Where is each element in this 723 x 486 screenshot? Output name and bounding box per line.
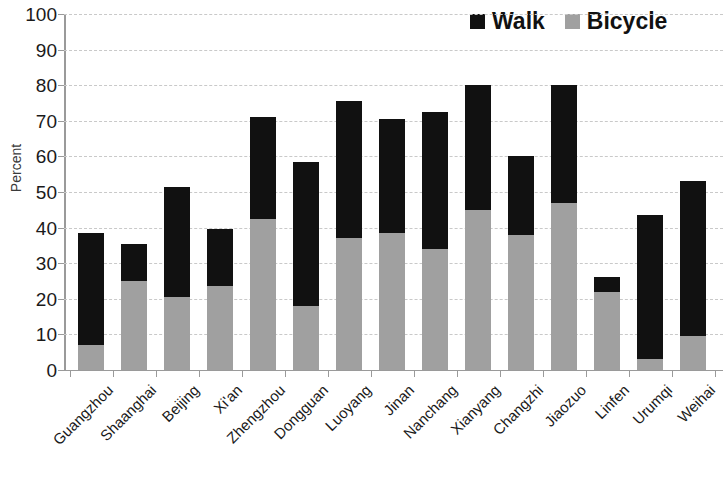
y-tick-mark-90 (58, 50, 64, 51)
x-tick-mark (715, 370, 716, 377)
bar-group[interactable] (422, 14, 448, 370)
bar-group[interactable] (293, 14, 319, 370)
bar-segment-bicycle[interactable] (379, 233, 405, 370)
x-axis-label-urumqi: Urumqi (630, 382, 675, 427)
x-axis-label-dongguan: Dongguan (271, 382, 331, 442)
x-tick-mark (285, 370, 286, 377)
x-tick-mark (672, 370, 673, 377)
y-tick-mark-10 (58, 334, 64, 335)
bar-segment-walk[interactable] (293, 162, 319, 306)
y-tick-label: 10 (11, 325, 57, 344)
gridline-0 (64, 370, 723, 371)
x-tick-mark (113, 370, 114, 377)
y-tick-label: 90 (11, 40, 57, 59)
x-axis-label-luoyang: Luoyang (322, 382, 373, 433)
stacked-bar-chart: WalkBicycle Percent 01020304050607080901… (0, 0, 723, 486)
x-axis-label-weihai: Weihai (675, 382, 718, 425)
bar-group[interactable] (78, 14, 104, 370)
bar-segment-walk[interactable] (508, 156, 534, 234)
bar-segment-walk[interactable] (250, 117, 276, 218)
y-tick-label: 20 (11, 289, 57, 308)
bar-group[interactable] (594, 14, 620, 370)
bar-group[interactable] (250, 14, 276, 370)
y-tick-mark-20 (58, 299, 64, 300)
x-tick-mark (371, 370, 372, 377)
bar-group[interactable] (680, 14, 706, 370)
y-tick-mark-80 (58, 85, 64, 86)
y-tick-mark-70 (58, 121, 64, 122)
x-tick-mark (70, 370, 71, 377)
y-tick-label: 80 (11, 76, 57, 95)
bar-segment-bicycle[interactable] (336, 238, 362, 370)
x-tick-mark (199, 370, 200, 377)
bar-segment-bicycle[interactable] (293, 306, 319, 370)
y-tick-mark-50 (58, 192, 64, 193)
bar-group[interactable] (379, 14, 405, 370)
y-tick-mark-40 (58, 228, 64, 229)
x-axis-label-changzhi: Changzhi (490, 382, 545, 437)
x-tick-mark (457, 370, 458, 377)
x-axis-label-beijing: Beijing (159, 382, 201, 424)
bar-segment-walk[interactable] (207, 229, 233, 286)
x-axis-label-guangzhou: Guangzhou (50, 382, 115, 447)
x-axis-label-nanchang: Nanchang (401, 382, 460, 441)
bar-group[interactable] (465, 14, 491, 370)
bar-segment-bicycle[interactable] (164, 297, 190, 370)
x-tick-mark (543, 370, 544, 377)
bar-segment-bicycle[interactable] (465, 210, 491, 370)
x-tick-mark (500, 370, 501, 377)
y-tick-label: 60 (11, 147, 57, 166)
bar-segment-bicycle[interactable] (121, 281, 147, 370)
bar-segment-bicycle[interactable] (594, 292, 620, 370)
y-tick-mark-30 (58, 263, 64, 264)
bar-segment-bicycle[interactable] (508, 235, 534, 370)
bar-group[interactable] (336, 14, 362, 370)
y-tick-label: 0 (11, 361, 57, 380)
bar-segment-bicycle[interactable] (637, 359, 663, 370)
y-tick-mark-0 (58, 370, 64, 371)
bar-segment-bicycle[interactable] (78, 345, 104, 370)
bar-segment-bicycle[interactable] (680, 336, 706, 370)
x-tick-mark (414, 370, 415, 377)
x-tick-mark (629, 370, 630, 377)
bar-segment-walk[interactable] (594, 277, 620, 291)
x-tick-mark (328, 370, 329, 377)
bar-segment-walk[interactable] (164, 187, 190, 297)
bar-segment-walk[interactable] (680, 181, 706, 336)
x-axis-label-xian: Xi'an (211, 382, 245, 416)
x-axis-label-shaanghai: Shaanghai (97, 382, 158, 443)
y-tick-label: 30 (11, 254, 57, 273)
bar-segment-walk[interactable] (422, 112, 448, 249)
bar-segment-walk[interactable] (379, 119, 405, 233)
bar-segment-bicycle[interactable] (250, 219, 276, 370)
x-axis-label-jinan: Jinan (381, 382, 417, 418)
y-tick-label: 70 (11, 111, 57, 130)
bar-group[interactable] (207, 14, 233, 370)
x-tick-mark (586, 370, 587, 377)
bar-group[interactable] (121, 14, 147, 370)
bar-group[interactable] (551, 14, 577, 370)
bar-segment-walk[interactable] (551, 85, 577, 202)
bar-group[interactable] (637, 14, 663, 370)
y-tick-label: 100 (11, 5, 57, 24)
y-tick-mark-100 (58, 14, 64, 15)
bar-segment-walk[interactable] (637, 215, 663, 359)
plot-area: 0102030405060708090100 (64, 14, 723, 370)
y-tick-label: 40 (11, 218, 57, 237)
y-tick-mark-60 (58, 156, 64, 157)
x-axis-label-jiaozuo: Jiaozuo (541, 382, 588, 429)
x-tick-mark (242, 370, 243, 377)
bar-segment-walk[interactable] (465, 85, 491, 210)
bar-segment-walk[interactable] (121, 244, 147, 281)
x-axis-label-linfen: Linfen (592, 382, 632, 422)
x-axis-label-zhengzhou: Zhengzhou (224, 382, 288, 446)
x-tick-mark (156, 370, 157, 377)
bar-segment-bicycle[interactable] (551, 203, 577, 370)
bar-segment-bicycle[interactable] (207, 286, 233, 370)
bar-group[interactable] (164, 14, 190, 370)
bar-segment-walk[interactable] (336, 101, 362, 238)
bar-group[interactable] (508, 14, 534, 370)
y-tick-label: 50 (11, 183, 57, 202)
bar-segment-bicycle[interactable] (422, 249, 448, 370)
bar-segment-walk[interactable] (78, 233, 104, 345)
